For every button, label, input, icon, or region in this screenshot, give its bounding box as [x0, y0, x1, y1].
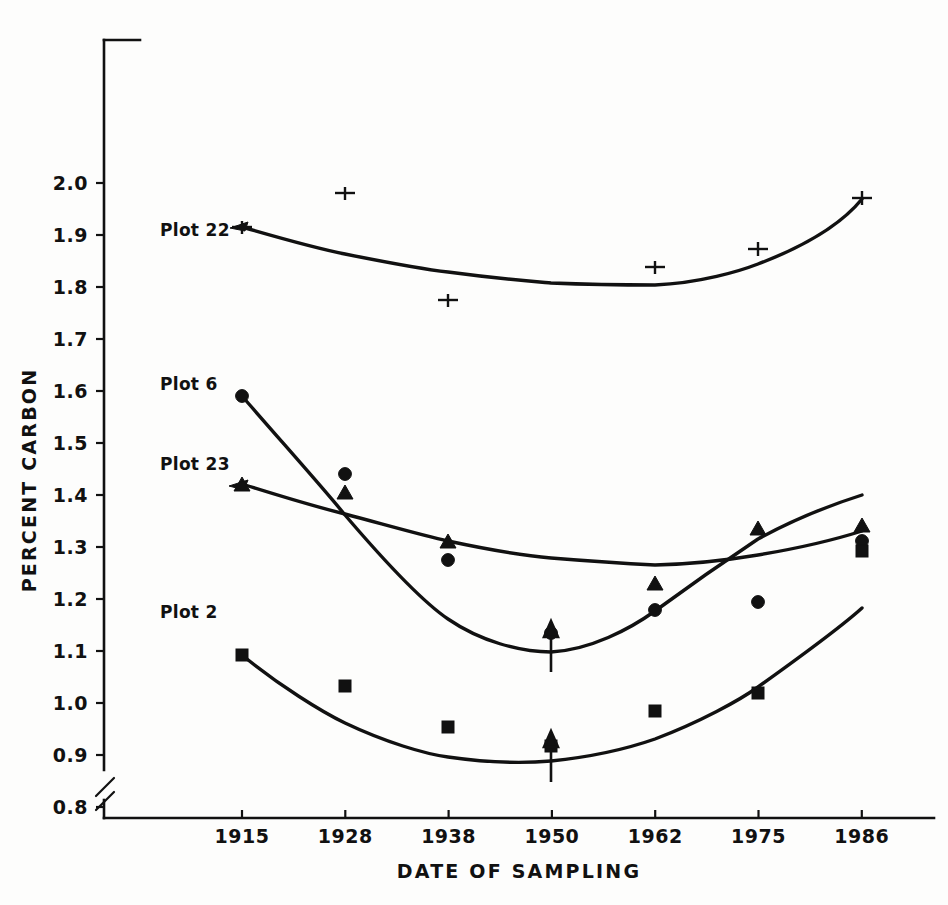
y-tick-label: 1.5: [53, 432, 88, 454]
square-marker: [649, 705, 661, 717]
y-tick-label: 1.9: [53, 224, 88, 246]
triangle-marker: [750, 521, 766, 535]
circle-marker: [752, 596, 765, 609]
series-plot-22-markers: [232, 187, 872, 307]
series-plot-6-markers: [236, 390, 869, 640]
label-leader-lines: [229, 222, 248, 490]
series-plot-6: [236, 390, 869, 652]
circle-marker: [649, 604, 662, 617]
chart-canvas: 2.01.91.81.71.61.51.41.31.21.11.00.90.8 …: [0, 0, 948, 905]
errorbar-marker: [748, 242, 768, 256]
series-label-plot-2: Plot 2: [160, 602, 218, 622]
errorbar-marker: [852, 191, 872, 205]
square-marker: [339, 680, 351, 692]
square-marker: [442, 721, 454, 733]
series-plot-22: [232, 187, 872, 307]
circle-marker: [236, 390, 249, 403]
x-tick-label: 1938: [421, 825, 476, 847]
x-tick-label: 1915: [215, 825, 270, 847]
y-tick-label: 2.0: [53, 172, 88, 194]
square-marker: [236, 649, 248, 661]
y-tick-label: 1.4: [53, 484, 88, 506]
annotation-arrows: [544, 621, 558, 782]
series-plot-22-curve: [242, 199, 862, 285]
y-tick-label: 1.0: [53, 692, 88, 714]
axis-group: [96, 40, 934, 818]
y-tick-label: 1.2: [53, 588, 88, 610]
y-tick-label: 1.1: [53, 640, 88, 662]
up-arrow-icon: [544, 731, 558, 782]
y-tick-group: 2.01.91.81.71.61.51.41.31.21.11.00.90.8: [53, 172, 104, 818]
errorbar-marker: [438, 294, 458, 307]
square-marker: [856, 545, 868, 557]
series-label-plot-22: Plot 22: [160, 220, 230, 240]
x-tick-label: 1986: [834, 825, 889, 847]
chart-figure: 2.01.91.81.71.61.51.41.31.21.11.00.90.8 …: [0, 0, 948, 905]
x-tick-label: 1928: [318, 825, 373, 847]
x-axis-title: DATE OF SAMPLING: [397, 860, 641, 882]
series-plot-23-curve: [242, 484, 862, 565]
y-tick-label: 1.7: [53, 328, 88, 350]
triangle-marker: [647, 576, 663, 590]
y-tick-label: 0.9: [53, 744, 88, 766]
series-label-plot-23: Plot 23: [160, 454, 230, 474]
series-plot-6-curve: [242, 396, 862, 652]
circle-marker: [442, 554, 455, 567]
triangle-marker: [854, 518, 870, 532]
square-marker: [752, 687, 764, 699]
series-label-plot-6: Plot 6: [160, 374, 218, 394]
y-tick-label: 1.8: [53, 276, 88, 298]
triangle-marker: [337, 485, 353, 499]
y-tick-label: 1.6: [53, 380, 88, 402]
y-tick-label: 0.8: [53, 796, 88, 818]
x-tick-group: 1915192819381950196219751986: [215, 810, 890, 847]
x-tick-label: 1975: [731, 825, 786, 847]
x-tick-label: 1962: [628, 825, 683, 847]
circle-marker: [339, 468, 352, 481]
errorbar-marker: [335, 187, 355, 200]
errorbar-marker: [645, 261, 665, 274]
x-tick-label: 1950: [524, 825, 579, 847]
y-axis-title: PERCENT CARBON: [18, 368, 40, 593]
y-tick-label: 1.3: [53, 536, 88, 558]
